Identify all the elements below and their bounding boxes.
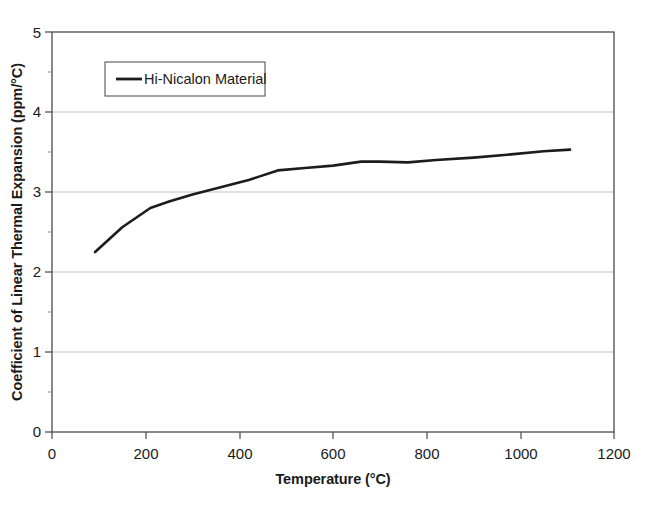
y-axis-title: Coefficient of Linear Thermal Expansion … [9, 63, 25, 401]
x-axis-ticks [52, 432, 614, 439]
y-tick-label-2: 2 [33, 263, 41, 280]
legend: Hi-Nicalon Material [105, 62, 266, 96]
x-tick-label-600: 600 [320, 445, 345, 462]
x-tick-label-400: 400 [227, 445, 252, 462]
y-tick-label-3: 3 [33, 183, 41, 200]
y-tick-label-4: 4 [33, 103, 41, 120]
legend-label-hi-nicalon-material: Hi-Nicalon Material [144, 71, 266, 87]
x-axis-tick-labels: 0 200 400 600 800 1000 1200 [48, 445, 631, 462]
x-tick-label-0: 0 [48, 445, 56, 462]
y-tick-label-5: 5 [33, 24, 41, 41]
x-tick-label-800: 800 [414, 445, 439, 462]
chart-figure: 0 1 2 3 4 5 0 200 400 600 800 1000 1200 … [0, 0, 648, 505]
y-tick-label-0: 0 [33, 423, 41, 440]
y-axis-tick-labels: 0 1 2 3 4 5 [33, 24, 41, 440]
x-tick-label-1000: 1000 [504, 445, 537, 462]
y-tick-label-1: 1 [33, 343, 41, 360]
x-axis-title: Temperature (°C) [275, 471, 390, 487]
x-tick-label-1200: 1200 [597, 445, 630, 462]
x-tick-label-200: 200 [133, 445, 158, 462]
thermal-expansion-line-chart: 0 1 2 3 4 5 0 200 400 600 800 1000 1200 … [0, 0, 648, 505]
